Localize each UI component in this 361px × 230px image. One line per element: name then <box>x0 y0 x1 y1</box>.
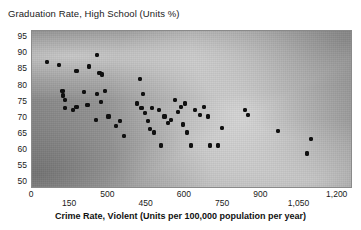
y-axis-tick-label: 55 <box>0 161 27 170</box>
scatter-point <box>220 126 224 130</box>
scatter-point <box>173 98 177 102</box>
scatter-point <box>185 130 189 134</box>
scatter-point <box>162 114 166 118</box>
scatter-point <box>202 105 206 109</box>
scatter-point <box>87 64 91 68</box>
x-axis-title: Crime Rate, Violent (Units per 100,000 p… <box>0 211 361 221</box>
scatter-point <box>141 92 145 96</box>
x-axis-tick-label: 1,050 <box>288 199 309 208</box>
x-axis-tick-label: 0 <box>29 190 34 199</box>
y-axis-tick-label: 75 <box>0 97 27 106</box>
scatter-points-layer <box>32 31 351 187</box>
scatter-point <box>181 122 185 126</box>
scatter-point <box>57 63 61 67</box>
scatter-point <box>138 77 142 81</box>
y-axis-tick-labels: 95908580757065605550 <box>0 30 27 188</box>
scatter-point <box>85 103 89 107</box>
scatter-point <box>198 113 202 117</box>
scatter-point <box>148 127 152 131</box>
scatter-point <box>276 129 280 133</box>
scatter-point <box>246 113 250 117</box>
scatter-point <box>118 119 122 123</box>
x-axis-tick-label: 1,200 <box>326 190 347 199</box>
scatter-point <box>305 151 309 155</box>
scatter-point <box>206 114 210 118</box>
x-axis-tick-label: 900 <box>253 190 267 199</box>
scatter-chart-figure: Graduation Rate, High School (Units %) 9… <box>0 0 361 230</box>
scatter-point <box>94 118 98 122</box>
scatter-point <box>189 143 193 147</box>
x-axis-tick-label: 450 <box>139 199 153 208</box>
y-axis-tick-label: 60 <box>0 145 27 154</box>
x-axis-tick-labels: 01505004506007509001,0501,200 <box>0 190 361 212</box>
scatter-point <box>150 106 154 110</box>
page-title: Graduation Rate, High School (Units %) <box>8 8 180 19</box>
scatter-point <box>193 108 197 112</box>
scatter-point <box>122 134 126 138</box>
scatter-point <box>61 93 65 97</box>
scatter-point <box>183 101 187 105</box>
y-axis-tick-label: 95 <box>0 32 27 41</box>
scatter-point <box>169 118 173 122</box>
plot-area <box>31 30 352 188</box>
x-axis-tick-label: 750 <box>215 199 229 208</box>
scatter-point <box>63 106 67 110</box>
scatter-point <box>103 89 107 93</box>
scatter-point <box>243 108 247 112</box>
scatter-point <box>143 111 147 115</box>
y-axis-tick-label: 90 <box>0 48 27 57</box>
scatter-point <box>95 92 99 96</box>
scatter-point <box>146 119 150 123</box>
scatter-point <box>135 101 139 105</box>
y-axis-tick-label: 65 <box>0 129 27 138</box>
scatter-point <box>208 143 212 147</box>
scatter-point <box>74 69 78 73</box>
scatter-point <box>152 130 156 134</box>
scatter-point <box>114 124 118 128</box>
scatter-point <box>157 108 161 112</box>
scatter-point <box>74 105 78 109</box>
scatter-point <box>63 98 67 102</box>
y-axis-tick-label: 80 <box>0 81 27 90</box>
scatter-point <box>309 137 313 141</box>
scatter-point <box>159 143 163 147</box>
y-axis-tick-label: 85 <box>0 64 27 73</box>
scatter-point <box>100 72 104 76</box>
scatter-point <box>176 110 180 114</box>
scatter-point <box>45 60 49 64</box>
x-axis-tick-label: 500 <box>100 190 114 199</box>
y-axis-tick-label: 50 <box>0 177 27 186</box>
scatter-point <box>60 89 64 93</box>
scatter-point <box>216 143 220 147</box>
scatter-point <box>99 100 103 104</box>
x-axis-tick-label: 600 <box>177 190 191 199</box>
scatter-point <box>95 53 99 57</box>
y-axis-tick-label: 70 <box>0 113 27 122</box>
scatter-point <box>82 90 86 94</box>
scatter-point <box>106 114 110 118</box>
x-axis-tick-label: 150 <box>62 199 76 208</box>
scatter-point <box>139 106 143 110</box>
